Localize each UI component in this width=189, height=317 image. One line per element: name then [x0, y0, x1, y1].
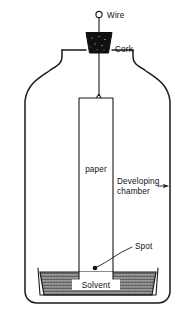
solvent-pool: Solvent	[38, 268, 158, 295]
cork-label: Cork	[115, 45, 134, 54]
paper-strip-body	[79, 98, 113, 285]
developing-chamber-label-line2: chamber	[117, 187, 150, 196]
wire	[96, 11, 102, 33]
spot-label: Spot	[135, 242, 153, 251]
spot-dot	[93, 266, 98, 271]
chromatography-paper	[79, 98, 113, 285]
paper-hook-icon	[97, 94, 102, 98]
sample-spot	[93, 247, 132, 270]
cork-body	[86, 33, 112, 54]
wire-label: Wire	[107, 11, 125, 20]
chromatography-diagram-svg: Solvent Wire Cork paper Developing chamb…	[0, 0, 189, 317]
paper-label: paper	[85, 165, 107, 174]
solvent-label: Solvent	[82, 281, 111, 290]
developing-chamber-label-line1: Developing	[117, 177, 160, 186]
chromatography-figure: Solvent Wire Cork paper Developing chamb…	[0, 0, 189, 317]
wire-loop-icon	[96, 11, 102, 17]
spot-leader-line	[97, 247, 133, 267]
paper-suspension-rod	[97, 53, 102, 98]
cork	[86, 33, 112, 54]
